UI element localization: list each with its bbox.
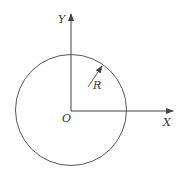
radius-label: R <box>92 79 101 92</box>
x-axis-label: X <box>162 116 172 129</box>
y-axis-label: Y <box>58 13 67 26</box>
origin-label: O <box>62 112 71 125</box>
circle-diagram: Y X O R <box>0 0 182 176</box>
